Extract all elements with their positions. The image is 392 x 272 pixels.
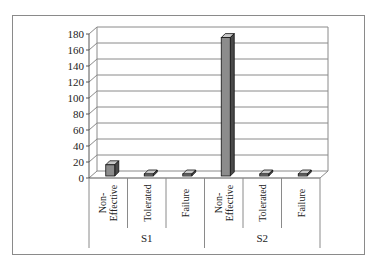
x-group-label: S1 [141,232,153,244]
x-category-label: Tolerated [142,184,153,222]
y-tick-label: 160 [68,44,85,56]
y-tick-label: 40 [73,140,85,152]
x-category-label: Tolerated [257,184,268,222]
x-category-label: Failure [296,188,307,217]
y-tick-label: 140 [68,60,85,72]
bar [221,34,234,176]
y-tick-label: 0 [79,172,85,184]
chart-frame [13,16,365,255]
chart: 020406080100120140160180 Non-EffectiveTo… [0,0,392,272]
y-tick-label: 80 [73,108,85,120]
y-tick-label: 120 [68,76,85,88]
y-tick-label: 180 [68,28,85,40]
y-tick-label: 100 [68,92,85,104]
y-tick-label: 60 [73,124,85,136]
x-category-label: Failure [180,188,191,217]
bar [106,161,119,176]
x-group-label: S2 [256,232,268,244]
y-tick-label: 20 [73,156,85,168]
